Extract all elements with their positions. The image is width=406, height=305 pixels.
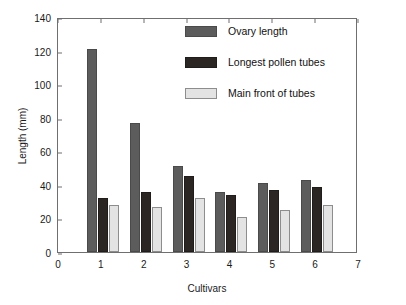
- y-axis-tick-label: 120: [34, 48, 58, 58]
- y-axis-tick-label: 60: [40, 148, 58, 158]
- y-axis-tick-label: 140: [34, 14, 58, 24]
- x-axis-tick-label: 5: [270, 252, 276, 270]
- bar: [323, 205, 333, 252]
- legend-item-label: Ovary length: [228, 26, 288, 37]
- chart-legend: Ovary lengthLongest pollen tubesMain fro…: [185, 26, 325, 119]
- y-axis-label-container: Length (mm): [14, 18, 28, 253]
- bar: [312, 187, 322, 252]
- y-axis-tick-label: 40: [40, 182, 58, 192]
- x-axis-tick-label: 2: [141, 252, 147, 270]
- y-axis-tick-label: 80: [40, 115, 58, 125]
- legend-item: Main front of tubes: [185, 88, 325, 99]
- legend-item-label: Main front of tubes: [228, 88, 315, 99]
- x-axis-tick-label: 3: [184, 252, 190, 270]
- x-axis-tick-mark: [358, 19, 359, 23]
- legend-item: Longest pollen tubes: [185, 57, 325, 68]
- x-axis-tick-label: 1: [98, 252, 104, 270]
- y-axis-label: Length (mm): [17, 107, 28, 164]
- x-axis-label: Cultivars: [57, 283, 357, 294]
- legend-item: Ovary length: [185, 26, 325, 37]
- x-axis-tick-label: 7: [355, 252, 361, 270]
- bar: [301, 180, 311, 252]
- x-axis-tick-label: 6: [312, 252, 318, 270]
- chart-figure: Length (mm) 020406080100120140 01234567 …: [0, 0, 406, 305]
- x-axis-tick-label: 0: [55, 252, 61, 270]
- legend-item-label: Longest pollen tubes: [228, 57, 325, 68]
- y-axis-tick-label: 20: [40, 215, 58, 225]
- x-axis-tick-label: 4: [227, 252, 233, 270]
- y-axis-tick-label: 100: [34, 81, 58, 91]
- legend-swatch-icon: [185, 57, 217, 68]
- legend-swatch-icon: [185, 88, 217, 99]
- legend-swatch-icon: [185, 26, 217, 37]
